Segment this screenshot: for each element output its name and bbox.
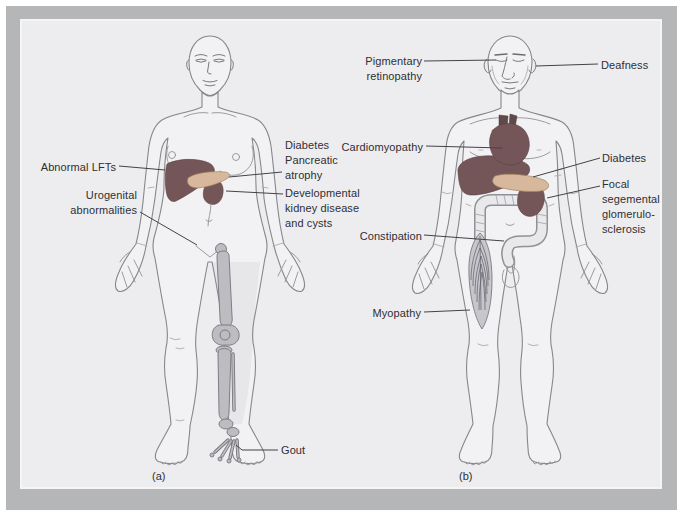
tarsal-bone	[227, 428, 239, 437]
label-diabetes-b: Diabetes	[602, 151, 662, 166]
anatomy-artwork	[0, 0, 683, 516]
patella-bone	[220, 330, 230, 340]
label-constipation: Constipation	[340, 229, 422, 244]
female-body	[115, 92, 304, 464]
caption-b: (b)	[459, 470, 493, 482]
figure-b-male	[412, 36, 607, 465]
male-head	[488, 36, 532, 94]
caption-a: (a)	[152, 470, 186, 482]
figure-a-female	[115, 36, 304, 465]
figure-page: Abnormal LFTs Urogenital abnormalities D…	[0, 0, 683, 516]
label-myopathy: Myopathy	[361, 306, 421, 321]
label-urogenital: Urogenital abnormalities	[59, 188, 137, 218]
leader-myopathy	[424, 310, 470, 312]
label-abnormal-lfts: Abnormal LFTs	[26, 160, 116, 175]
label-pigmentary-retinopathy: Pigmentary retinopathy	[354, 54, 422, 84]
female-left-ear-icon	[187, 60, 189, 70]
label-focal-segmental: Focal segemental glomerulo-sclerosis	[602, 177, 672, 237]
label-gout: Gout	[281, 443, 325, 458]
leader-deafness	[536, 64, 598, 66]
label-developmental-kidney: Developmental kidney disease and cysts	[285, 186, 375, 231]
female-head	[189, 36, 231, 96]
label-deafness: Deafness	[601, 58, 661, 73]
female-right-ear-icon	[232, 60, 234, 70]
label-cardiomyopathy: Cardiomyopathy	[331, 140, 423, 155]
tibia-bone	[218, 349, 231, 420]
